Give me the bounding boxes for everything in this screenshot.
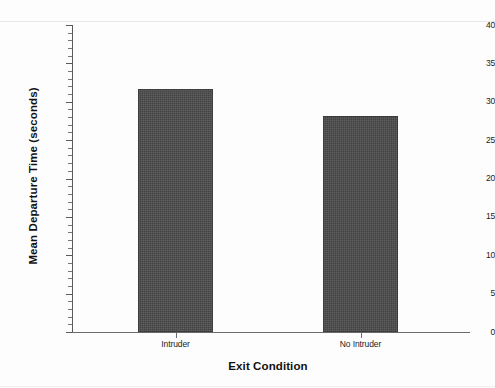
- y-axis-minor-tick: [68, 71, 72, 72]
- y-axis-tick-label: 35: [433, 58, 495, 68]
- y-axis-tick: [66, 102, 72, 103]
- y-axis-spine: [72, 25, 73, 333]
- y-axis-minor-tick: [68, 132, 72, 133]
- y-axis-minor-tick: [68, 194, 72, 195]
- y-axis-tick-label: 0: [433, 327, 495, 337]
- y-axis-minor-tick: [68, 309, 72, 310]
- y-axis-minor-tick: [68, 324, 72, 325]
- y-axis-tick-label: 15: [433, 211, 495, 221]
- y-axis-tick: [66, 255, 72, 256]
- y-axis-tick: [66, 332, 72, 333]
- y-axis-tick-label: 25: [433, 135, 495, 145]
- y-axis-tick-label: 20: [433, 173, 495, 183]
- y-axis-minor-tick: [68, 225, 72, 226]
- y-axis-tick: [66, 63, 72, 64]
- y-axis-tick-label: 30: [433, 96, 495, 106]
- y-axis-minor-tick: [68, 56, 72, 57]
- y-axis-minor-tick: [68, 163, 72, 164]
- y-axis-minor-tick: [68, 33, 72, 34]
- y-axis-minor-tick: [68, 248, 72, 249]
- y-axis-minor-tick: [68, 286, 72, 287]
- y-axis-minor-tick: [68, 271, 72, 272]
- bar-intruder: [138, 89, 213, 332]
- y-axis-minor-tick: [68, 232, 72, 233]
- y-axis-minor-tick: [68, 148, 72, 149]
- x-axis-tick-label: Intruder: [116, 339, 236, 349]
- x-axis-tick: [361, 332, 362, 338]
- bar-no-intruder: [323, 116, 398, 332]
- y-axis-minor-tick: [68, 171, 72, 172]
- y-axis-minor-tick: [68, 186, 72, 187]
- y-axis-minor-tick: [68, 117, 72, 118]
- y-axis-minor-tick: [68, 109, 72, 110]
- y-axis-minor-tick: [68, 317, 72, 318]
- y-axis-minor-tick: [68, 278, 72, 279]
- y-axis-minor-tick: [68, 48, 72, 49]
- y-axis-minor-tick: [68, 86, 72, 87]
- y-axis-tick-label: 10: [433, 250, 495, 260]
- x-axis-spine: [72, 332, 470, 333]
- y-axis-minor-tick: [68, 40, 72, 41]
- x-axis-tick: [176, 332, 177, 338]
- y-axis-minor-tick: [68, 94, 72, 95]
- y-axis-tick: [66, 217, 72, 218]
- y-axis-minor-tick: [68, 79, 72, 80]
- y-axis-tick: [66, 140, 72, 141]
- x-axis-tick-label: No Intruder: [301, 339, 421, 349]
- x-axis-title: Exit Condition: [168, 360, 368, 372]
- y-axis-tick-label: 5: [433, 288, 495, 298]
- y-axis-title: Mean Departure Time (seconds): [27, 76, 39, 276]
- y-axis-minor-tick: [68, 263, 72, 264]
- y-axis-minor-tick: [68, 240, 72, 241]
- y-axis-tick: [66, 294, 72, 295]
- y-axis-tick: [66, 25, 72, 26]
- y-axis-tick: [66, 179, 72, 180]
- y-axis-minor-tick: [68, 125, 72, 126]
- y-axis-minor-tick: [68, 301, 72, 302]
- plot-area: 0510152025303540 IntruderNo Intruder Mea…: [0, 0, 495, 388]
- y-axis-tick-label: 40: [433, 20, 495, 30]
- y-axis-minor-tick: [68, 202, 72, 203]
- y-axis-minor-tick: [68, 155, 72, 156]
- y-axis-minor-tick: [68, 209, 72, 210]
- bar-chart-figure: 0510152025303540 IntruderNo Intruder Mea…: [0, 0, 495, 388]
